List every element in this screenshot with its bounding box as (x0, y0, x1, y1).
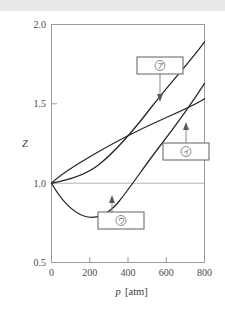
callout-b-label: イ (183, 148, 190, 156)
y-axis-title: Z (22, 138, 28, 149)
y-tick-label-1-5: 1.5 (34, 98, 47, 109)
x-tick-label-800: 800 (197, 267, 212, 278)
callout-a-label: ア (157, 62, 164, 70)
y-axis-ticks (52, 25, 58, 263)
x-axis-title-symbol: p (114, 286, 120, 297)
x-tick-label-400: 400 (121, 267, 136, 278)
callout-b-arrowhead (183, 122, 189, 130)
y-tick-label-2-0: 2.0 (34, 19, 47, 30)
x-axis-title-unit: [atm] (125, 286, 148, 297)
callout-c-arrowhead (109, 195, 115, 203)
x-tick-label-200: 200 (82, 267, 97, 278)
callout-series-b: イ (163, 122, 209, 160)
y-tick-label-1-0: 1.0 (34, 178, 47, 189)
y-tick-label-0-5: 0.5 (34, 257, 47, 268)
callout-series-a: ア (137, 57, 183, 102)
compressibility-factor-chart: 2.0 1.5 1.0 0.5 0 200 400 600 800 Z p [a… (0, 0, 225, 313)
chart-svg: 2.0 1.5 1.0 0.5 0 200 400 600 800 Z p [a… (0, 0, 225, 313)
callout-series-c: ウ (98, 195, 144, 229)
curve-series-b (52, 99, 205, 183)
x-tick-label-600: 600 (159, 267, 174, 278)
x-tick-label-0: 0 (49, 267, 54, 278)
x-axis-ticks (52, 257, 205, 263)
callout-c-label: ウ (118, 217, 125, 225)
